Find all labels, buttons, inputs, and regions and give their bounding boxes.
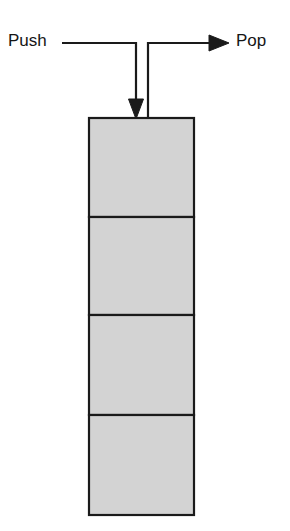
stack-cell bbox=[89, 118, 194, 217]
pop-arrowhead-icon bbox=[209, 35, 229, 51]
stack-cells bbox=[89, 118, 194, 515]
push-arrowhead-icon bbox=[129, 99, 144, 119]
stack-diagram: Push Pop bbox=[0, 0, 290, 531]
stack-cell bbox=[89, 315, 194, 415]
stack-cell bbox=[89, 415, 194, 515]
stack-cell bbox=[89, 217, 194, 315]
pop-arrow bbox=[148, 35, 229, 119]
push-arrow bbox=[62, 43, 144, 119]
pop-arrow-line bbox=[148, 43, 212, 119]
push-arrow-line bbox=[62, 43, 136, 100]
stack-diagram-graphics bbox=[0, 0, 290, 531]
